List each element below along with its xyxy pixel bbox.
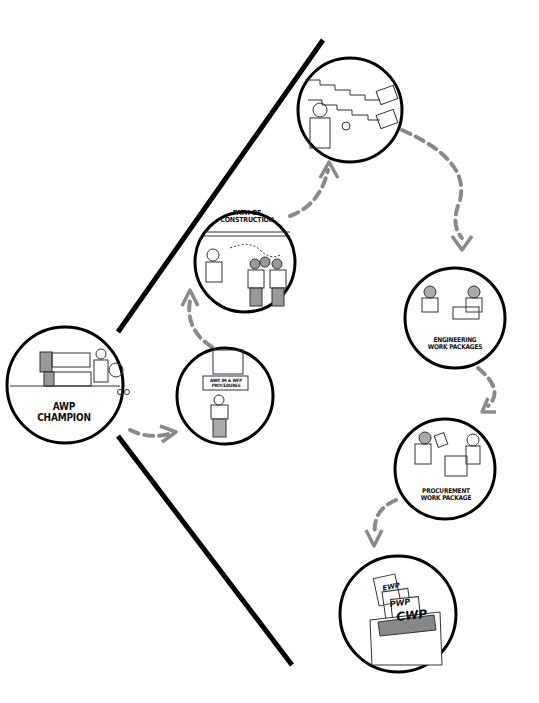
label-line: AWP (37, 402, 91, 413)
arrow-champion-to-procedures (130, 430, 172, 436)
label-procurement: PROCUREMENT WORK PACKAGE (421, 488, 471, 502)
arrowhead-icon (366, 530, 382, 546)
arrow-procurement-to-cwp (375, 500, 396, 535)
label-path-of-construction: PATH OF CONSTRUCTION (220, 210, 274, 225)
label-line: WORK PACKAGE (421, 495, 471, 502)
label-line: WORK PACKAGES (428, 344, 482, 351)
node-awp-champion (7, 327, 123, 443)
label-line: CONSTRUCTION (220, 217, 274, 224)
lower-funnel-line (118, 436, 292, 665)
node-engineering (405, 268, 505, 368)
label-engineering: ENGINEERING WORK PACKAGES (428, 337, 482, 351)
label-awp-champion: AWP CHAMPION (37, 402, 91, 423)
diagram-svg: EWP PWP CWP (0, 0, 539, 703)
label-procedures: AWP, IM & WFP PROCEDURES (210, 379, 242, 388)
diagram-canvas: EWP PWP CWP AWP CHAMPION AWP, IM & WFP P… (0, 0, 539, 703)
label-line: CHAMPION (37, 413, 91, 424)
label-line: PROCEDURES (210, 384, 242, 389)
arrow-schedule-to-engineering (402, 130, 462, 238)
arrow-procedures-to-path (189, 300, 212, 347)
